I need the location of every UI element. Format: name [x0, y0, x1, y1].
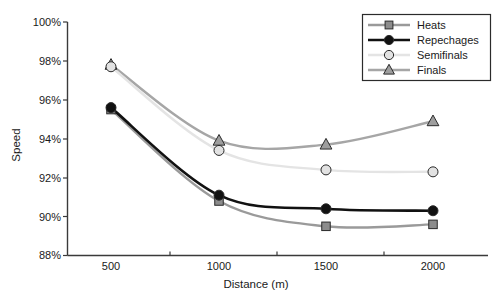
- series-line-semifinals: [111, 67, 433, 172]
- legend-label-heats: Heats: [417, 19, 446, 31]
- legend-marker-semifinals: [384, 50, 393, 59]
- y-tick-label-92: 92%: [39, 172, 61, 184]
- data-point-semifinals-2000: [428, 167, 438, 177]
- data-point-repechages-500: [106, 103, 116, 113]
- x-tick-label-2000: 2000: [421, 260, 445, 272]
- y-tick-label-96: 96%: [39, 94, 61, 106]
- data-point-finals-2000: [427, 115, 439, 126]
- data-point-repechages-1500: [321, 204, 331, 214]
- x-tick-label-1500: 1500: [314, 260, 338, 272]
- series-line-repechages: [111, 108, 433, 211]
- y-tick-label-100: 100%: [33, 16, 61, 28]
- legend-label-semifinals: Semifinals: [417, 49, 468, 61]
- y-tick-label-88: 88%: [39, 249, 61, 261]
- legend-marker-repechages: [384, 35, 393, 44]
- data-point-semifinals-1000: [214, 145, 224, 155]
- legend-label-repechages: Repechages: [417, 34, 479, 46]
- x-axis-title: Distance (m): [223, 278, 288, 290]
- x-tick-label-1000: 1000: [207, 260, 231, 272]
- chart-legend: HeatsRepechagesSemifinalsFinals: [363, 15, 491, 81]
- legend-label-finals: Finals: [417, 64, 447, 76]
- series-repechages: [111, 108, 433, 211]
- data-point-semifinals-500: [106, 62, 116, 72]
- y-tick-label-98: 98%: [39, 55, 61, 67]
- y-tick-label-90: 90%: [39, 211, 61, 223]
- chart-svg: Speed 100% 98% 96% 94% 92% 90% 88% 500 1…: [0, 0, 497, 294]
- plot-series-layer: [105, 59, 439, 231]
- data-point-heats-1500: [322, 222, 331, 231]
- y-axis-title: Speed: [10, 128, 22, 161]
- data-point-repechages-2000: [428, 206, 438, 216]
- speed-vs-distance-chart: Speed 100% 98% 96% 94% 92% 90% 88% 500 1…: [0, 0, 497, 294]
- series-markers-repechages: [106, 103, 438, 216]
- series-semifinals: [111, 67, 433, 172]
- data-point-repechages-1000: [214, 190, 224, 200]
- x-tick-label-500: 500: [102, 260, 120, 272]
- data-point-heats-2000: [429, 220, 438, 229]
- data-point-semifinals-1500: [321, 165, 331, 175]
- y-tick-label-94: 94%: [39, 133, 61, 145]
- legend-marker-heats: [385, 21, 393, 29]
